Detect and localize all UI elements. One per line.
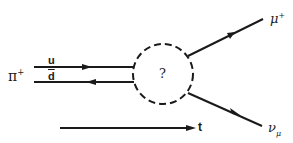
muon-line xyxy=(188,19,263,56)
time-axis-label: t xyxy=(198,121,202,133)
muon-label: μ+ xyxy=(270,12,285,25)
time-axis-arrow xyxy=(60,125,196,131)
u-quark-label: u xyxy=(48,55,55,66)
feynman-diagram xyxy=(0,0,293,143)
pion-label: π+ xyxy=(8,68,24,83)
neutrino-label: νμ xyxy=(268,121,281,137)
blob-question-label: ? xyxy=(159,67,166,80)
dbar-quark-label: d xyxy=(48,71,55,82)
